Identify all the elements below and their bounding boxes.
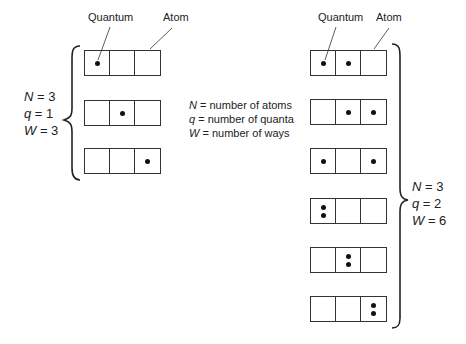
- atom-cell: [311, 248, 336, 272]
- quantum-dot: [346, 110, 351, 115]
- atom-cell: [135, 101, 160, 125]
- atom-cell: [311, 297, 336, 321]
- atom-cell: [311, 51, 336, 75]
- atom-cell: [336, 149, 361, 173]
- atom-cell: [336, 51, 361, 75]
- quantum-dot: [145, 159, 150, 164]
- quantum-dot: [371, 303, 376, 308]
- atom-row: [310, 247, 387, 273]
- atom-cell: [361, 199, 386, 223]
- atom-cell: [85, 149, 110, 173]
- atom-cell: [110, 51, 135, 75]
- quantum-dot: [371, 110, 376, 115]
- atom-cell: [336, 199, 361, 223]
- quantum-dot: [95, 61, 100, 66]
- atom-row: [84, 50, 161, 76]
- atom-cell: [361, 149, 386, 173]
- atom-cell: [361, 100, 386, 124]
- atom-cell: [336, 297, 361, 321]
- quantum-dot: [371, 159, 376, 164]
- quantum-dot: [321, 61, 326, 66]
- atom-cell: [361, 51, 386, 75]
- atom-cell: [311, 100, 336, 124]
- atom-cell: [311, 199, 336, 223]
- quantum-dot: [321, 205, 326, 210]
- atom-row: [310, 148, 387, 174]
- atom-cell: [135, 149, 160, 173]
- atom-cell: [336, 100, 361, 124]
- atom-row: [84, 100, 161, 126]
- quantum-dot: [321, 159, 326, 164]
- atom-row: [310, 296, 387, 322]
- atom-row: [84, 148, 161, 174]
- quantum-label-left: Quantum: [88, 11, 133, 23]
- atom-label-right: Atom: [376, 11, 402, 23]
- quantum-dot: [346, 262, 351, 267]
- braces-and-pointers: [0, 0, 466, 344]
- quantum-dot: [120, 111, 125, 116]
- quantum-dot: [346, 254, 351, 259]
- quantum-dot: [371, 311, 376, 316]
- atom-cell: [361, 297, 386, 321]
- atom-cell: [110, 101, 135, 125]
- right-params: N = 3 q = 2 W = 6: [412, 178, 446, 229]
- left-params: N = 3 q = 1 W = 3: [24, 88, 58, 139]
- quantum-dot: [321, 213, 326, 218]
- atom-row: [310, 50, 387, 76]
- legend: N = number of atoms q = number of quanta…: [189, 98, 294, 140]
- atom-cell: [336, 248, 361, 272]
- atom-cell: [85, 51, 110, 75]
- atom-row: [310, 99, 387, 125]
- quantum-label-right: Quantum: [318, 11, 363, 23]
- atom-cell: [135, 51, 160, 75]
- atom-cell: [85, 101, 110, 125]
- atom-label-left: Atom: [163, 11, 189, 23]
- quantum-dot: [346, 61, 351, 66]
- atom-cell: [311, 149, 336, 173]
- atom-cell: [110, 149, 135, 173]
- atom-cell: [361, 248, 386, 272]
- atom-row: [310, 198, 387, 224]
